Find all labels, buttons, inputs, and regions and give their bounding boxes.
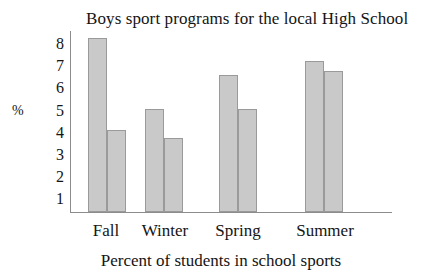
category-label-spring: Spring	[193, 221, 283, 241]
y-tick-label-4: 4	[38, 125, 64, 141]
bar-fall-2	[107, 130, 126, 212]
y-tick-label-6: 6	[38, 80, 64, 96]
bar-fall-1	[88, 38, 107, 212]
bar-spring-1	[219, 75, 238, 212]
bar-summer-1	[305, 61, 324, 212]
y-tick-label-2: 2	[38, 169, 64, 185]
x-axis-title: Percent of students in school sports	[0, 250, 442, 271]
y-axis-label: %	[12, 104, 24, 118]
bar-winter-2	[164, 138, 183, 212]
bar-chart: Boys sport programs for the local High S…	[0, 0, 442, 277]
y-tick-label-8: 8	[38, 36, 64, 52]
y-tick-label-5: 5	[38, 103, 64, 119]
bar-summer-2	[324, 71, 343, 212]
bar-spring-2	[238, 109, 257, 212]
plot-area	[70, 0, 392, 213]
y-tick-label-1: 1	[38, 191, 64, 207]
y-tick-label-3: 3	[38, 147, 64, 163]
bar-winter-1	[145, 109, 164, 212]
y-tick-label-7: 7	[38, 58, 64, 74]
category-label-summer: Summer	[280, 221, 370, 241]
